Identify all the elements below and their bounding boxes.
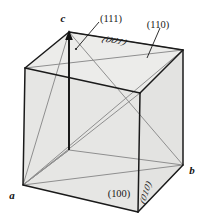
plane-label-110: (110) [147,19,170,31]
leader-dot-111 [75,48,77,50]
crystal-cube-figure: c a b (111) (110) (001) (100) (010) [0,0,200,216]
cube-diagram-svg: c a b (111) (110) (001) (100) (010) [0,0,200,216]
axis-label-c: c [61,12,66,24]
axis-label-b: b [189,164,195,176]
plane-label-111: (111) [100,13,122,25]
plane-label-100: (100) [108,188,131,200]
axis-label-a: a [9,189,15,201]
